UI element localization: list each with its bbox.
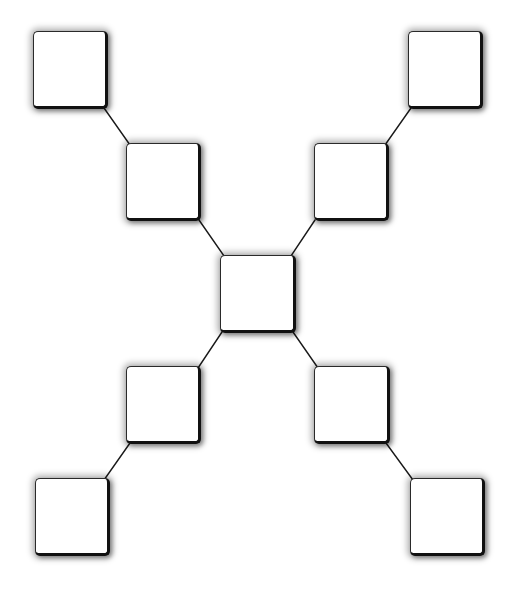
connector-upper-right-mid-to-center	[291, 220, 315, 256]
connector-lower-left-mid-to-bottom-left	[104, 443, 130, 480]
node-label	[315, 367, 387, 441]
connector-top-left-to-upper-left-mid	[104, 108, 130, 145]
node-box-bottom-right[interactable]	[410, 478, 485, 556]
node-box-top-left[interactable]	[33, 31, 108, 109]
node-label	[127, 144, 198, 218]
connector-top-right-to-upper-right-mid	[385, 108, 411, 145]
node-label	[315, 144, 386, 218]
connector-lower-right-mid-to-bottom-right	[386, 443, 413, 480]
connector-center-to-lower-left-mid	[198, 332, 222, 368]
node-label	[411, 479, 482, 553]
node-box-bottom-left[interactable]	[35, 478, 110, 556]
node-box-upper-left-mid[interactable]	[126, 143, 201, 221]
hierarchy-diagram	[0, 0, 522, 594]
node-box-lower-right-mid[interactable]	[314, 366, 390, 444]
node-box-center[interactable]	[220, 255, 296, 333]
node-label	[409, 32, 480, 106]
connector-center-to-lower-right-mid	[293, 332, 318, 368]
node-label	[127, 367, 198, 441]
node-box-top-right[interactable]	[408, 31, 483, 109]
connector-upper-left-mid-to-center	[199, 220, 224, 256]
node-label	[36, 479, 107, 553]
node-box-lower-left-mid[interactable]	[126, 366, 201, 444]
node-label	[34, 32, 105, 106]
node-label	[221, 256, 293, 330]
node-box-upper-right-mid[interactable]	[314, 143, 389, 221]
